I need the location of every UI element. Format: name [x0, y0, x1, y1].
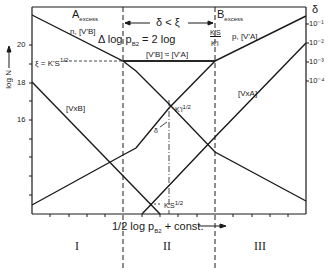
curve-label-VAx: [VxA]: [238, 90, 257, 98]
delta-tick-2: 10⁻²: [309, 39, 324, 47]
curve-label-VBx: [VxB]: [66, 105, 85, 113]
region-numeral-1: I: [75, 240, 79, 252]
ki-ratio-denominator: K'i: [211, 40, 219, 47]
b-excess-label: Bexcess: [217, 9, 243, 22]
curve-label-n-VB: n, [V'B]: [70, 28, 96, 36]
middle-range-label: δ < ξ: [156, 17, 180, 28]
ki-label: K'i1/2: [175, 104, 191, 113]
delta-tick-4: 10⁻⁴: [309, 77, 325, 85]
ks-ratio-numerator: K'S: [210, 29, 221, 37]
y-tick-16: 16: [17, 116, 25, 124]
delta-log-equation: Δ log pB2 = 2 log: [98, 34, 175, 47]
y-tick-20: 20: [17, 41, 25, 49]
curve-label-p-VA: p, [V'A]: [232, 33, 258, 41]
delta-pointer: [160, 122, 167, 127]
y-tick-18: 18: [17, 79, 25, 87]
ks-label: K'S1/2: [164, 200, 183, 209]
region-numeral-2: II: [163, 240, 171, 252]
region-numeral-3: III: [254, 240, 266, 252]
a-excess-label: Aexcess: [72, 9, 98, 22]
x-axis-label: 1/2 log pB2 + const.: [112, 221, 203, 234]
delta-axis-label: δ: [312, 4, 318, 15]
y-axis-arrow: [7, 46, 11, 68]
delta-tick-1: 10⁻¹: [309, 20, 324, 28]
y-axis-label: log N: [5, 70, 13, 89]
equal-concentration-label: [V'B] ≈ [V'A]: [146, 51, 188, 59]
delta-marker-label: δ: [154, 127, 158, 134]
delta-tick-3: 10⁻³: [309, 58, 324, 66]
xi-equation: ξ = K'S1/2: [35, 57, 68, 68]
